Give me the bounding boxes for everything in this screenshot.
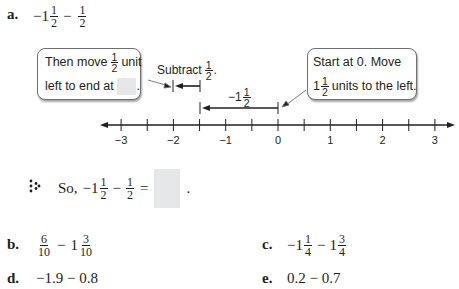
fraction: 6 10 [37,233,51,258]
numerator: 1 [304,233,312,246]
conclusion-prefix: So, [58,180,78,197]
right-arrow-head-icon [447,122,455,128]
fraction: 1 2 [126,176,134,201]
denominator: 2 [100,189,108,201]
denominator: 2 [126,189,134,201]
tick-label: −3 [115,134,128,146]
problem-b-label: b. [7,236,19,253]
fraction: 1 4 [304,233,312,258]
minus-sign: − [317,237,325,254]
problem-d-label: d. [7,270,19,287]
tick-label: 2 [380,134,386,146]
tick-label: 0 [275,134,281,146]
conclusion-expression: So, −1 1 2 − 1 2 = . [58,173,190,203]
numerator: 6 [40,233,48,246]
denominator: 10 [37,246,51,258]
tick-label: −1 [219,134,232,146]
numerator: 1 [100,176,108,189]
numerator: 3 [338,233,346,246]
expr-lead: 1 [329,237,337,254]
minus-sign: − [113,180,121,197]
long-arrow [200,102,278,114]
problem-b-expression: 6 10 − 1 3 10 [36,230,94,260]
callout-pointers [148,80,306,107]
tick-label: 1 [327,134,333,146]
expr-lead: −1 [83,180,99,197]
fraction: 1 2 [100,176,108,201]
problem-d-expression: −1.9 − 0.8 [36,270,98,287]
expr-lead: −1 [287,237,303,254]
minus-sign: − [57,237,65,254]
tick-label: −2 [167,134,180,146]
denominator: 4 [338,246,346,258]
numerator: 1 [126,176,134,189]
tick-label: 3 [432,134,438,146]
left-arrow-head-icon [100,122,108,128]
period: . [187,180,191,197]
fraction: 3 4 [338,233,346,258]
problem-e-label: e. [262,270,272,287]
fraction: 3 10 [79,233,93,258]
numerator: 3 [82,233,90,246]
problem-c-expression: −1 1 4 − 1 3 4 [287,230,347,260]
denominator: 10 [79,246,93,258]
short-arrow [173,80,200,92]
therefore-icon [28,178,42,198]
problem-e-expression: 0.2 − 0.7 [287,270,340,287]
denominator: 4 [304,246,312,258]
expr-lead: 1 [70,237,78,254]
equals-sign: = [140,180,148,197]
answer-blank [154,169,180,208]
problem-c-label: c. [262,236,272,253]
